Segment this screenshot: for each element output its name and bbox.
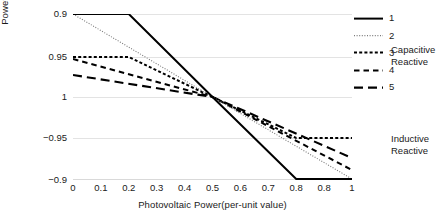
annotation-inductive-reactive: Inductive Reactive (391, 133, 429, 156)
y-tick-label: −0.95 (43, 133, 67, 143)
legend-item-1[interactable]: 1 (352, 10, 444, 27)
y-tick-label: 0.95 (49, 52, 68, 62)
annotation-line-1: Inductive (391, 133, 429, 145)
y-axis-tick-labels: 0.9 0.95 1 −0.95 −0.9 (14, 0, 67, 224)
annotation-line-1: Capacitive (391, 44, 435, 56)
legend-item-2[interactable]: 2 (352, 27, 444, 44)
y-axis-title: Power Factor (0, 0, 10, 56)
x-tick-label: 0.8 (290, 183, 303, 193)
legend-swatch-dashed-long-icon (352, 79, 385, 96)
series-lines (73, 14, 352, 179)
legend-label: 2 (389, 31, 394, 41)
x-tick-label: 0.1 (94, 183, 107, 193)
annotation-line-2: Reactive (391, 56, 435, 68)
x-tick-label: 0.2 (122, 183, 135, 193)
x-axis-title: Photovoltaic Power(per-unit value) (73, 199, 352, 210)
legend-swatch-solid-icon (352, 10, 385, 27)
annotation-line-2: Reactive (391, 145, 429, 157)
legend-item-5[interactable]: 5 (352, 79, 444, 96)
annotation-capacitive-reactive: Capacitive Reactive (391, 44, 435, 67)
x-tick-label: 0 (70, 183, 75, 193)
series-line-1 (73, 14, 352, 179)
y-tick-label: 1 (62, 92, 67, 102)
x-tick-label: 0.3 (150, 183, 163, 193)
series-line-5 (73, 75, 352, 158)
legend-swatch-dotted-icon (352, 27, 385, 44)
x-tick-label: 0.6 (234, 183, 247, 193)
x-tick-label: 0.7 (262, 183, 275, 193)
y-axis-title-text: Power Factor (0, 0, 10, 25)
legend-label: 1 (389, 13, 394, 23)
x-tick-label: 0.4 (178, 183, 191, 193)
x-tick-label: 0.8 (317, 183, 330, 193)
chart-figure: Power Factor 0.9 0.95 1 −0.95 −0.9 (0, 0, 444, 224)
y-tick-label: −0.9 (48, 175, 67, 185)
plot-area (73, 14, 352, 180)
x-tick-label: 0.5 (206, 183, 219, 193)
legend-label: 5 (389, 82, 394, 92)
y-tick-label: 0.9 (54, 9, 67, 19)
legend-swatch-dashed-medium-icon (352, 62, 385, 79)
series-line-4 (73, 59, 352, 170)
legend-swatch-dashed-short-icon (352, 44, 385, 61)
x-axis-tick-labels: 0 0.1 0.2 0.3 0.4 0.5 0.6 0.7 0.8 0.8 1 (73, 183, 352, 197)
x-tick-label: 1 (349, 183, 354, 193)
